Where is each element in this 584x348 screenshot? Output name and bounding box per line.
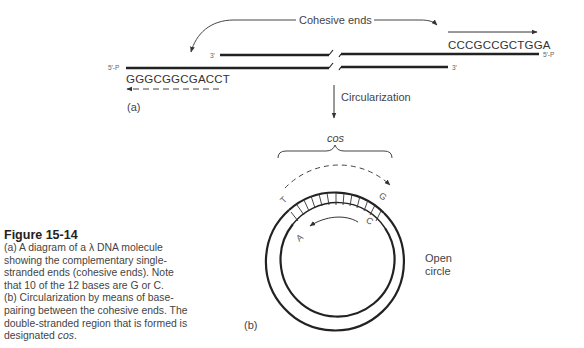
open-circle-label-line2: circle (425, 265, 451, 277)
open-circle-label-line1: Open (425, 252, 452, 264)
cohesive-right-arrow (374, 20, 437, 25)
left-sequence: GGGCGGCGACCT (126, 73, 230, 85)
base-inner-left: A (294, 232, 305, 244)
base-outer-right: G (377, 190, 389, 202)
left-5prime-label: 5′-P (108, 64, 119, 71)
figure-title: Figure 15-14 (4, 228, 194, 242)
circularization-label: Circularization (341, 91, 411, 103)
caption-part-b-text: (b) Circularization by means of base-pai… (4, 292, 188, 341)
right-3prime-label: 3′ (452, 64, 458, 71)
figure-caption: Figure 15-14 (a) A diagram of a λ DNA mo… (4, 228, 194, 343)
base-inner-right: C (364, 215, 375, 227)
cos-label: cos (327, 132, 345, 144)
cos-dashed-arrow (285, 165, 390, 188)
panel-b-label: (b) (244, 319, 257, 331)
panel-a-label: (a) (127, 101, 140, 113)
cos-brace (278, 145, 392, 158)
cohesive-ends-label: Cohesive ends (299, 14, 372, 26)
caption-part-a: (a) A diagram of a λ DNA molecule showin… (4, 242, 194, 292)
caption-part-b: (b) Circularization by means of base-pai… (4, 292, 194, 342)
caption-cos-term: cos (58, 330, 74, 341)
base-outer-left: T (278, 194, 289, 205)
inner-direction-arrow (310, 217, 358, 226)
cohesive-left-arrow (191, 20, 296, 52)
caption-end: . (74, 330, 77, 341)
right-sequence: CCCGCCGCTGGA (448, 39, 551, 51)
left-3prime-label: 3′ (210, 52, 216, 59)
outer-strand-circle (266, 210, 404, 331)
right-5prime-label: 5′-P (543, 51, 554, 58)
